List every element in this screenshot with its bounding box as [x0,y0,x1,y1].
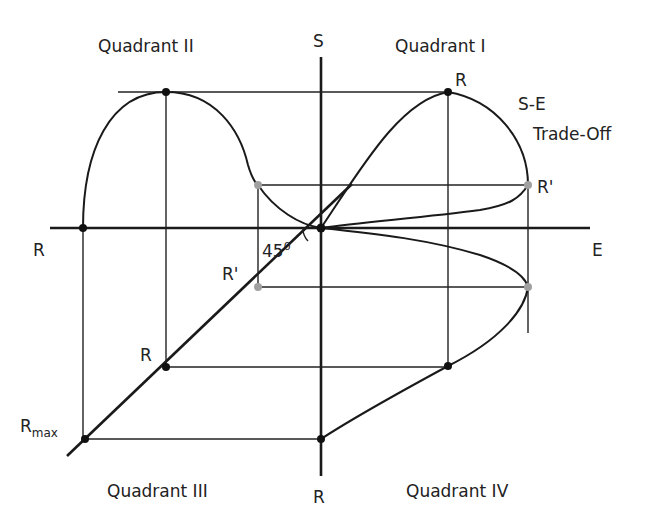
q4-r-prime-point [524,283,532,291]
q3-r-prime-point [254,283,262,291]
q1-r-prime-label: R' [537,177,554,197]
q2-curve [83,92,321,228]
left-r-axis-label: R [33,240,45,260]
quadrant-ii-label: Quadrant II [98,36,194,56]
q2-r-prime-point [254,181,262,189]
quadrant-iii-label: Quadrant III [107,481,208,501]
q1-r-point [444,88,452,96]
bottom-r-axis-label: R [313,487,325,507]
s-axis-label: S [313,31,324,51]
rmax-main: R [20,416,32,436]
q2-left-r-point [79,224,87,232]
angle-unit: 0 [284,240,291,253]
angle-label: 450 [262,240,291,261]
q1-r-label: R [455,70,467,90]
trade-off-label: Trade-Off [532,124,613,144]
rmax-subscript: max [32,426,58,440]
q4-upper-curve [321,228,528,287]
q3-r-label: R [140,345,152,365]
quadrant-iv-label: Quadrant IV [406,481,509,501]
q3-r-point [162,363,170,371]
origin-point [317,224,326,233]
rmax-point [81,435,89,443]
quadrant-i-label: Quadrant I [395,36,486,56]
bottom-r-point [317,435,325,443]
q4-lower-curve [321,287,528,439]
q1-r-prime-point [524,181,532,189]
q1-tradeoff-curve [321,92,528,228]
rmax-label: Rmax [20,416,58,440]
quadrant-diagram: Quadrant II Quadrant I Quadrant III Quad… [0,0,662,525]
q2-peak-point [162,88,170,96]
q1-inner-curve [321,185,528,228]
q3-r-prime-label: R' [222,264,239,284]
q4-r-point [444,362,452,370]
e-axis-label: E [592,240,603,260]
angle-value: 45 [262,241,284,261]
se-label: S-E [518,94,546,114]
